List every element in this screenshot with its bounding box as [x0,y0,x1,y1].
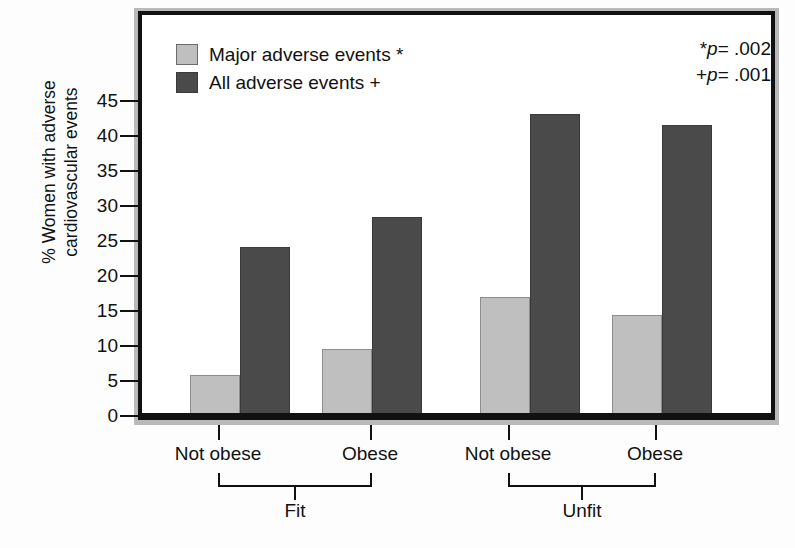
y-axis-tick-40 [120,135,138,137]
y-axis-tick-20 [120,275,138,277]
y-axis-label-5: 5 [72,371,118,390]
y-axis-tick-10 [120,345,138,347]
p-plus-prefix: + [696,64,707,85]
x-axis-tick-fit-obese [370,425,372,440]
bar-fit-obese-major [322,349,372,415]
bar-unfit-obese-all [662,125,712,416]
y-axis-tick-0 [120,415,138,417]
y-axis-tick-15 [120,310,138,312]
x-axis-tick-unfit-obese [655,425,657,440]
group-bracket-unfit [508,473,656,487]
x-axis-baseline [142,413,771,417]
y-axis-label-35: 35 [72,161,118,180]
y-axis-labels: 45 40 35 30 25 20 15 10 5 0 [60,0,118,548]
y-axis-tick-30 [120,205,138,207]
legend-swatch-light-icon [176,44,198,65]
p-plus-value: = .001 [718,64,771,85]
y-axis-label-0: 0 [72,406,118,425]
y-axis-label-25: 25 [72,231,118,250]
bar-fit-obese-all [372,217,422,415]
group-label-fit: Fit [250,500,340,522]
p-value-star: *p= .002 [696,36,771,62]
group-label-unfit: Unfit [537,500,627,522]
bar-group-container [142,100,771,415]
legend-item-all-adverse-events: All adverse events + [176,72,403,93]
bar-unfit-notobese-major [480,297,530,415]
x-axis-tick-unfit-notobese [508,425,510,440]
group-bracket-fit [218,473,372,487]
bar-fit-notobese-major [190,375,240,415]
y-axis-label-15: 15 [72,301,118,320]
y-axis-label-45: 45 [72,91,118,110]
p-star-value: = .002 [718,38,771,59]
legend-label-major-adverse-events: Major adverse events * [209,45,403,65]
bar-unfit-obese-major [612,315,662,415]
p-value-annotations: *p= .002 +p= .001 [696,36,771,88]
x-axis-tick-fit-notobese [218,425,220,440]
y-axis-label-20: 20 [72,266,118,285]
bar-unfit-notobese-all [530,114,580,415]
group-bracket-stem-unfit [581,487,583,500]
chart-legend: Major adverse events * All adverse event… [176,44,403,93]
x-axis-label-unfit-notobese: Not obese [448,443,568,465]
legend-item-major-adverse-events: Major adverse events * [176,44,403,65]
p-star-var: p [707,38,718,59]
legend-swatch-dark-icon [176,72,198,93]
y-axis-tick-35 [120,170,138,172]
y-axis-label-40: 40 [72,126,118,145]
y-axis-tick-45 [120,100,138,102]
bar-chart-figure: % Women with adverse cardiovascular even… [0,0,795,548]
y-axis-title-line1: % Women with adverse [38,0,60,352]
group-bracket-stem-fit [294,487,296,500]
p-plus-var: p [707,64,718,85]
y-axis-tick-25 [120,240,138,242]
bar-fit-notobese-all [240,247,290,415]
x-axis-label-fit-obese: Obese [325,443,415,465]
y-axis-label-30: 30 [72,196,118,215]
x-axis-label-unfit-obese: Obese [610,443,700,465]
y-axis-label-10: 10 [72,336,118,355]
x-axis-label-fit-notobese: Not obese [158,443,278,465]
legend-label-all-adverse-events: All adverse events + [209,73,381,93]
y-axis-tick-5 [120,380,138,382]
p-value-plus: +p= .001 [696,62,771,88]
p-star-prefix: * [700,38,707,59]
